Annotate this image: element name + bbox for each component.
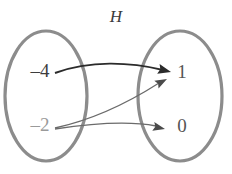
arrow-neg2-to-0-head	[152, 122, 166, 133]
arrow-neg4-to-1	[55, 64, 172, 77]
domain-oval	[5, 31, 87, 161]
codomain-element-0: 0	[177, 115, 187, 136]
arrow-neg2-to-1-head	[154, 75, 169, 89]
domain-element-neg4: –4	[30, 60, 51, 81]
domain-element-neg2: –2	[30, 114, 50, 135]
arrow-neg2-to-1	[55, 75, 169, 128]
arrow-neg2-to-1-line	[55, 83, 159, 128]
codomain-element-1: 1	[177, 61, 187, 82]
diagram-canvas: H –4 –2 1 0	[0, 0, 232, 174]
mapping-diagram-figure: H –4 –2 1 0	[0, 0, 232, 174]
codomain-oval	[138, 31, 222, 161]
arrow-neg4-to-1-head	[157, 64, 172, 77]
arrow-neg4-to-1-line	[55, 64, 163, 73]
diagram-title: H	[109, 7, 124, 26]
